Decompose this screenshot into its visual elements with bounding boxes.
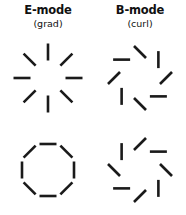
polarization-tick: [160, 164, 172, 176]
panel-b-mode-minus45-svg: [94, 128, 186, 212]
column-header-e-mode: E-mode (grad): [2, 5, 94, 28]
column-title-e-mode: E-mode: [2, 5, 94, 17]
polarization-tick: [134, 138, 146, 150]
column-subtitle-e-mode: (grad): [2, 19, 94, 29]
panel-e-mode-tangential-svg: [2, 128, 94, 212]
polarization-tick: [134, 190, 146, 202]
panel-b-mode-plus45-svg: [94, 36, 186, 120]
polarization-tick: [108, 164, 120, 176]
polarization-tick: [134, 98, 146, 110]
panel-b-mode-plus45: [94, 36, 186, 120]
polarization-tick: [134, 46, 146, 58]
panel-e-mode-tangential: [2, 128, 94, 212]
polarization-tick: [24, 54, 36, 66]
polarization-tick: [60, 146, 72, 158]
polarization-tick: [60, 54, 72, 66]
panel-b-mode-minus45: [94, 128, 186, 212]
panel-e-mode-radial: [2, 36, 94, 120]
column-header-b-mode: B-mode (curl): [94, 5, 186, 28]
panel-e-mode-radial-svg: [2, 36, 94, 120]
polarization-tick: [108, 72, 120, 84]
polarization-tick: [60, 182, 72, 194]
polarization-tick: [24, 182, 36, 194]
polarization-pattern-figure: E-mode (grad) B-mode (curl): [0, 0, 186, 215]
column-title-b-mode: B-mode: [94, 5, 186, 17]
polarization-tick: [60, 90, 72, 102]
column-subtitle-b-mode: (curl): [94, 19, 186, 29]
polarization-tick: [24, 146, 36, 158]
polarization-tick: [24, 90, 36, 102]
polarization-tick: [160, 72, 172, 84]
